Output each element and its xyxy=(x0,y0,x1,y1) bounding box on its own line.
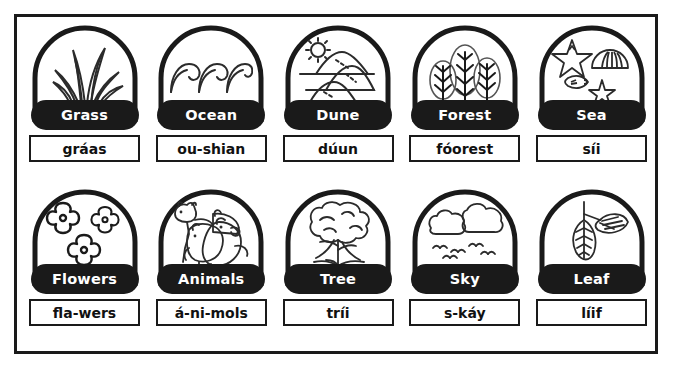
card-label-pill-ocean[interactable]: Ocean xyxy=(157,100,265,130)
card-label-pill-sky[interactable]: Sky xyxy=(411,264,519,294)
card-label-pill-tree[interactable]: Tree xyxy=(284,264,392,294)
card-arch-sky: Sky xyxy=(409,186,521,286)
card-label-text: Sea xyxy=(576,108,607,123)
card-arch-leaf: Leaf xyxy=(536,186,648,286)
dune-sun-icon xyxy=(296,36,380,106)
pronunciation-text: gráas xyxy=(62,142,106,156)
card-arch-flowers: Flowers xyxy=(29,186,141,286)
pronunciation-box-sea[interactable]: síi xyxy=(536,135,647,162)
card-label-pill-leaf[interactable]: Leaf xyxy=(538,264,646,294)
card-label-pill-flowers[interactable]: Flowers xyxy=(31,264,139,294)
card-arch-ocean: Ocean xyxy=(155,22,267,122)
ocean-waves-icon xyxy=(169,36,253,106)
card-label-pill-grass[interactable]: Grass xyxy=(31,100,139,130)
forest-trees-icon xyxy=(423,36,507,106)
card-row-2: Flowers fla-wers xyxy=(25,186,651,350)
flowers-icon xyxy=(43,200,127,270)
pronunciation-box-sky[interactable]: s-káy xyxy=(409,299,520,326)
card-arch-grass: Grass xyxy=(29,22,141,122)
clouds-birds-icon xyxy=(423,200,507,270)
card-label-text: Sky xyxy=(450,272,480,287)
card-label-text: Flowers xyxy=(52,272,117,287)
pronunciation-text: líif xyxy=(581,306,602,320)
leaf-icon xyxy=(550,200,634,270)
card-label-text: Forest xyxy=(438,108,491,123)
card-label-pill-forest[interactable]: Forest xyxy=(411,100,519,130)
pronunciation-box-dune[interactable]: dúun xyxy=(283,135,394,162)
pronunciation-text: ou-shian xyxy=(177,142,245,156)
pronunciation-box-forest[interactable]: fóorest xyxy=(409,135,520,162)
card-ocean[interactable]: Ocean ou-shian xyxy=(152,22,271,162)
card-flowers[interactable]: Flowers fla-wers xyxy=(25,186,144,326)
pronunciation-text: á-ni-mols xyxy=(175,306,248,320)
pronunciation-box-tree[interactable]: tríi xyxy=(283,299,394,326)
card-animals[interactable]: Animals á-ni-mols xyxy=(152,186,271,326)
pronunciation-text: fóorest xyxy=(436,142,493,156)
card-forest[interactable]: Forest fóorest xyxy=(405,22,524,162)
pronunciation-box-flowers[interactable]: fla-wers xyxy=(29,299,140,326)
pronunciation-text: dúun xyxy=(318,142,358,156)
pronunciation-text: tríi xyxy=(326,306,349,320)
card-arch-tree: Tree xyxy=(282,186,394,286)
card-label-text: Animals xyxy=(178,272,244,287)
card-arch-dune: Dune xyxy=(282,22,394,122)
card-arch-animals: Animals xyxy=(155,186,267,286)
card-leaf[interactable]: Leaf líif xyxy=(532,186,651,326)
tree-icon xyxy=(296,200,380,270)
card-arch-sea: Sea xyxy=(536,22,648,122)
card-label-text: Leaf xyxy=(574,272,610,287)
seashells-starfish-icon xyxy=(550,36,634,106)
pronunciation-text: síi xyxy=(583,142,601,156)
card-label-pill-dune[interactable]: Dune xyxy=(284,100,392,130)
card-sky[interactable]: Sky s-káy xyxy=(405,186,524,326)
card-row-1: Grass gráas xyxy=(25,22,651,186)
card-sea[interactable]: Sea síi xyxy=(532,22,651,162)
card-arch-forest: Forest xyxy=(409,22,521,122)
pronunciation-text: s-káy xyxy=(444,306,486,320)
pronunciation-box-leaf[interactable]: líif xyxy=(536,299,647,326)
pronunciation-box-grass[interactable]: gráas xyxy=(29,135,140,162)
card-label-pill-animals[interactable]: Animals xyxy=(157,264,265,294)
card-grass[interactable]: Grass gráas xyxy=(25,22,144,162)
pronunciation-box-ocean[interactable]: ou-shian xyxy=(156,135,267,162)
worksheet-sheet: Grass gráas xyxy=(14,14,658,354)
card-tree[interactable]: Tree tríi xyxy=(279,186,398,326)
card-label-text: Dune xyxy=(316,108,359,123)
pronunciation-box-animals[interactable]: á-ni-mols xyxy=(156,299,267,326)
card-label-pill-sea[interactable]: Sea xyxy=(538,100,646,130)
grass-icon xyxy=(43,36,127,106)
card-grid: Grass gráas xyxy=(25,22,651,350)
pronunciation-text: fla-wers xyxy=(53,306,116,320)
card-label-text: Ocean xyxy=(185,108,237,123)
card-label-text: Tree xyxy=(320,272,356,287)
farm-animals-icon xyxy=(169,200,253,270)
card-dune[interactable]: Dune dúun xyxy=(279,22,398,162)
card-label-text: Grass xyxy=(61,108,108,123)
